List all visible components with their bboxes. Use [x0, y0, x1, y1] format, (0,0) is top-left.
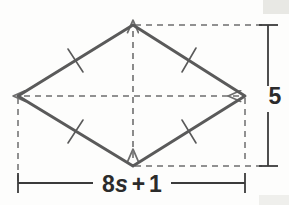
rhombus-diagram: 5 8s+1 [0, 0, 289, 205]
tick-mark-bottom-right-side [182, 120, 196, 143]
tick-mark-bottom-left-side [68, 120, 83, 143]
height-dimension-label: 5 [269, 83, 282, 109]
width-label-coefficient: 8 [102, 171, 115, 197]
width-label-constant: 1 [149, 171, 162, 197]
diagonals-group [24, 31, 239, 160]
geometry-figure-canvas: 5 8s+1 [0, 0, 289, 205]
tick-mark-top-right-side [182, 48, 196, 72]
tick-mark-top-left-side [68, 49, 83, 72]
width-label-operator: + [132, 171, 145, 197]
extension-lines-group [18, 25, 266, 181]
rhombus-outline [18, 25, 245, 166]
tick-marks-group [68, 48, 196, 143]
width-dimension-label: 8s+1 [102, 171, 162, 197]
width-label-variable: s [115, 171, 128, 197]
